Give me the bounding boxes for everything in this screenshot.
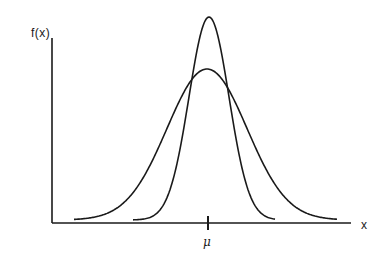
x-axis-label: x — [361, 219, 367, 231]
mu-tick-label: μ — [203, 236, 211, 248]
normal-curves-diagram — [0, 0, 388, 264]
narrow-normal-curve — [133, 17, 275, 220]
y-axis-label: f(x) — [31, 27, 50, 39]
wide-normal-curve — [74, 69, 337, 219]
